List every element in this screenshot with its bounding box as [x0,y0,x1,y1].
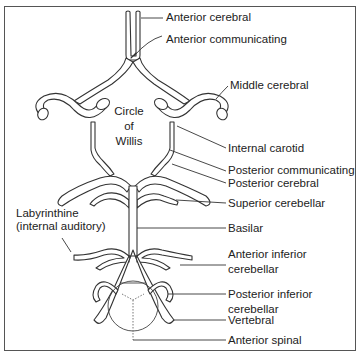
label-vertebral: Vertebral [228,314,274,327]
label-pica-line-1: Posterior inferior [228,287,312,302]
label-posterior-cerebral: Posterior cerebral [228,177,319,190]
label-anterior-communicating: Anterior communicating [166,33,287,46]
right-superior-cerebellar [137,194,178,208]
left-aica [74,249,129,270]
anterior-spinal-dotted [122,294,144,340]
label-internal-carotid: Internal carotid [228,142,304,155]
center-label-line-3: Willis [104,134,154,149]
label-anterior-cerebral: Anterior cerebral [166,11,251,24]
label-posterior-communicating: Posterior communicating [228,164,355,177]
basilar-vessel [129,186,137,256]
label-posterior-inferior-cerebellar: Posterior inferior cerebellar [228,287,312,317]
label-labyrinthine-line-2: (internal auditory) [16,220,105,233]
label-anterior-inferior-cerebellar: Anterior inferior cerebellar [228,247,307,277]
circle-of-willis-label: Circle of Willis [104,104,154,149]
label-superior-cerebellar: Superior cerebellar [228,197,325,210]
label-basilar: Basilar [228,222,263,235]
center-label-line-2: of [104,119,154,134]
left-superior-cerebellar [90,193,129,208]
right-posterior-communicating [151,122,174,176]
label-aica-line-2: cerebellar [228,262,307,277]
anterior-cerebral-vessel [126,11,140,60]
label-labyrinthine: Labyrinthine (internal auditory) [16,207,105,233]
center-label-line-1: Circle [104,104,154,119]
right-aca-branch [133,58,190,104]
right-aica [137,249,192,270]
label-labyrinthine-line-1: Labyrinthine [16,207,105,220]
label-middle-cerebral: Middle cerebral [230,79,309,92]
left-aca-branch [74,58,133,104]
label-aica-line-1: Anterior inferior [228,247,307,262]
label-anterior-spinal: Anterior spinal [228,334,302,347]
